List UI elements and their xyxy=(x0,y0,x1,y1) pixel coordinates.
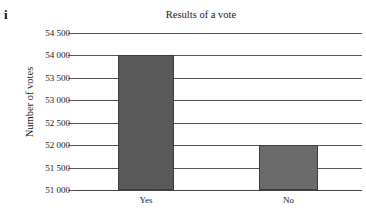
figure-index-label: i xyxy=(4,8,8,21)
bar-yes xyxy=(118,55,174,190)
y-axis-tick-mark xyxy=(68,168,74,169)
y-axis-tick-mark xyxy=(68,100,74,101)
y-axis-tick-label: 54 500 xyxy=(40,28,70,38)
y-axis-title: Number of votes xyxy=(24,47,36,157)
bar-no xyxy=(259,145,318,190)
chart-title: Results of a vote xyxy=(40,9,362,21)
y-axis-tick-label: 52 500 xyxy=(40,118,70,128)
y-axis-tick-label: 51 500 xyxy=(40,163,70,173)
gridline xyxy=(74,190,362,191)
y-axis-tick-mark xyxy=(68,33,74,34)
y-axis-tick-mark xyxy=(68,190,74,191)
x-axis-tick-label-no: No xyxy=(259,195,318,205)
y-axis-tick-label: 53 000 xyxy=(40,95,70,105)
x-axis-tick-label-yes: Yes xyxy=(118,195,174,205)
y-axis-tick-label: 54 000 xyxy=(40,50,70,60)
plot-area xyxy=(74,33,362,190)
y-axis-tick-label: 53 500 xyxy=(40,73,70,83)
y-axis-tick-mark xyxy=(68,55,74,56)
y-axis-tick-label: 52 000 xyxy=(40,140,70,150)
gridline xyxy=(74,33,362,34)
y-axis-tick-mark xyxy=(68,123,74,124)
y-axis-tick-mark xyxy=(68,145,74,146)
y-axis-tick-label: 51 000 xyxy=(40,185,70,195)
y-axis-tick-mark xyxy=(68,78,74,79)
chart-figure: i Results of a vote Number of votes 51 0… xyxy=(0,0,366,214)
